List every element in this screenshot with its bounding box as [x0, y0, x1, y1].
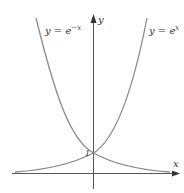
y-axis-arrow-icon [91, 14, 97, 23]
x-axis-arrow-icon [172, 171, 180, 177]
curve-exp-pos [15, 18, 147, 172]
curve-label-exp-pos: y = ex [148, 24, 179, 36]
curve-label-exp-neg: y = e−x [44, 24, 81, 36]
intercept-label: 1 [85, 149, 90, 158]
x-axis-label: x [173, 158, 179, 169]
curve-exp-neg [36, 18, 170, 172]
y-axis-label: y [97, 14, 104, 25]
graph-canvas: y = e−x y = ex y x 1 [0, 0, 184, 193]
